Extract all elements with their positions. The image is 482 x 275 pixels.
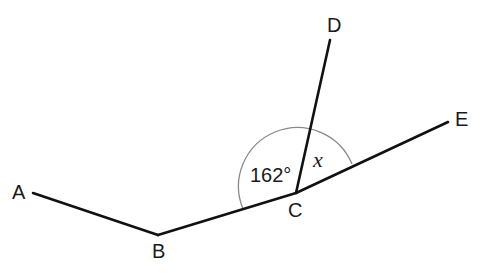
- point-label-b: B: [152, 240, 165, 262]
- segment-bc: [158, 193, 296, 235]
- point-label-c: C: [288, 199, 302, 221]
- segment-ab: [33, 193, 158, 235]
- angle-diagram: A B C D E 162° x: [0, 0, 482, 275]
- point-label-e: E: [455, 108, 468, 130]
- angle-label-bcd: 162°: [250, 164, 291, 186]
- point-label-a: A: [12, 181, 26, 203]
- point-label-d: D: [327, 14, 341, 36]
- angle-label-dce: x: [312, 147, 323, 172]
